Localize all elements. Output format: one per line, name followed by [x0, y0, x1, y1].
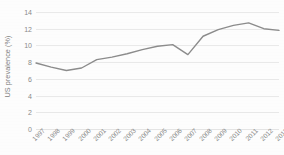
x-tick-label-2005: 2005: [152, 127, 167, 142]
series-line-layer: [36, 12, 279, 129]
x-tick-label-2013: 2013: [274, 127, 284, 142]
x-tick-label-1998: 1998: [46, 127, 61, 142]
x-tick-label-2004: 2004: [137, 127, 152, 142]
y-axis-tick-labels: 02468101214: [14, 0, 34, 132]
series-line-us-prevalence: [36, 23, 279, 71]
y-tick-label-10: 10: [24, 42, 32, 49]
x-tick-label-2003: 2003: [122, 127, 137, 142]
y-tick-label-6: 6: [28, 75, 32, 82]
y-axis-title: US prevalence (%): [0, 0, 14, 132]
y-tick-label-12: 12: [24, 25, 32, 32]
y-tick-label-8: 8: [28, 59, 32, 66]
x-tick-label-2006: 2006: [168, 127, 183, 142]
x-axis-tick-labels: 1997199819992000200120022003200420052006…: [36, 130, 279, 155]
x-tick-label-2002: 2002: [107, 127, 122, 142]
x-tick-label-2001: 2001: [92, 127, 107, 142]
x-tick-label-1999: 1999: [61, 127, 76, 142]
x-tick-label-2000: 2000: [76, 127, 91, 142]
x-tick-label-2008: 2008: [198, 127, 213, 142]
y-axis-title-label: US prevalence (%): [3, 35, 12, 97]
y-tick-label-4: 4: [28, 92, 32, 99]
x-tick-label-2012: 2012: [259, 127, 274, 142]
x-tick-label-2007: 2007: [183, 127, 198, 142]
x-tick-label-2011: 2011: [244, 127, 259, 142]
y-tick-label-14: 14: [24, 9, 32, 16]
plot-area: [36, 12, 279, 129]
x-tick-label-2010: 2010: [228, 127, 243, 142]
line-chart-figure: US prevalence (%) 02468101214 1997199819…: [0, 0, 284, 155]
y-tick-label-0: 0: [28, 126, 32, 133]
x-tick-label-2009: 2009: [213, 127, 228, 142]
y-tick-label-2: 2: [28, 109, 32, 116]
